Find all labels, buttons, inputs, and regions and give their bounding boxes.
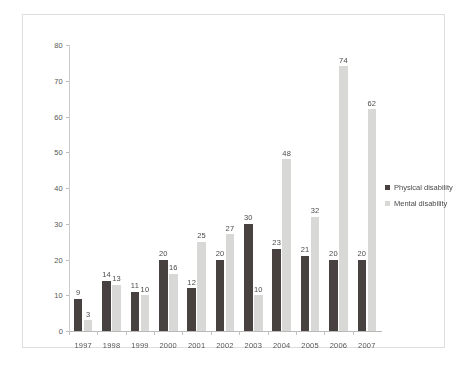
plot-area: 01020304050607080 9319971413199811101999… [69,45,381,331]
x-tick-label: 2001 [182,341,210,350]
bar-mental-disability-2007 [368,109,377,331]
x-tick-label: 1999 [126,341,154,350]
bar-value-label: 30 [236,213,260,222]
bar-group: 12252001 [182,45,210,331]
bar-mental-disability-1999 [141,295,150,331]
x-tick-label: 2007 [353,341,381,350]
bar-physical-disability-1998 [102,281,111,331]
legend-label: Mental disability [394,199,447,208]
x-tick-label: 1997 [69,341,97,350]
x-tick-mark [268,331,269,335]
bar-mental-disability-2003 [254,295,263,331]
bar-group: 14131998 [97,45,125,331]
legend-label: Physical disability [394,183,453,192]
y-tick-label: 40 [41,184,63,193]
bar-physical-disability-2005 [301,256,310,331]
x-tick-mark [296,331,297,335]
bar-mental-disability-2001 [197,242,206,331]
bar-group: 20742006 [324,45,352,331]
chart-frame: 01020304050607080 9319971413199811101999… [22,14,445,348]
bar-mental-disability-1998 [112,285,121,331]
square-marker-dark-icon [385,185,390,190]
bar-group: 931997 [69,45,97,331]
x-tick-label: 1998 [97,341,125,350]
x-tick-mark [182,331,183,335]
legend-item: Physical disability [385,183,453,192]
legend-item: Mental disability [385,199,453,208]
x-tick-mark [324,331,325,335]
y-tick-label: 10 [41,291,63,300]
x-tick-mark [353,331,354,335]
bar-value-label: 9 [66,288,90,297]
bar-group: 23482004 [268,45,296,331]
x-tick-mark [97,331,98,335]
y-tick-label: 50 [41,148,63,157]
bar-physical-disability-2006 [329,260,338,332]
bar-physical-disability-2001 [187,288,196,331]
x-tick-label: 2006 [324,341,352,350]
bar-mental-disability-2002 [226,234,235,331]
bar-physical-disability-2003 [244,224,253,331]
y-tick-label: 20 [41,255,63,264]
bar-mental-disability-1997 [84,320,93,331]
bar-physical-disability-2004 [272,249,281,331]
x-tick-mark [126,331,127,335]
bar-group: 30102003 [239,45,267,331]
bar-group: 20162000 [154,45,182,331]
x-tick-mark [239,331,240,335]
bar-mental-disability-2005 [311,217,320,331]
x-tick-label: 2000 [154,341,182,350]
x-tick-label: 2002 [211,341,239,350]
bar-group: 11101999 [126,45,154,331]
y-tick-label: 60 [41,112,63,121]
x-tick-label: 2005 [296,341,324,350]
bar-physical-disability-2002 [216,260,225,332]
bar-mental-disability-2006 [339,66,348,331]
bar-group: 21322005 [296,45,324,331]
bar-mental-disability-2000 [169,274,178,331]
y-tick-label: 30 [41,219,63,228]
x-tick-mark [211,331,212,335]
x-tick-label: 2004 [268,341,296,350]
square-marker-light-icon [385,201,390,206]
bar-physical-disability-1999 [131,292,140,331]
x-tick-label: 2003 [239,341,267,350]
chart-legend: Physical disabilityMental disability [385,183,453,215]
bar-group: 20272002 [211,45,239,331]
y-tick-label: 0 [41,327,63,336]
bar-physical-disability-2007 [358,260,367,332]
bar-value-label: 20 [151,249,175,258]
x-tick-mark [154,331,155,335]
bar-group: 20622007 [353,45,381,331]
y-tick-label: 80 [41,41,63,50]
y-tick-label: 70 [41,76,63,85]
bar-value-label: 62 [360,99,384,108]
bar-mental-disability-2004 [282,159,291,331]
x-tick-mark [69,331,70,335]
x-axis-line [69,331,382,332]
